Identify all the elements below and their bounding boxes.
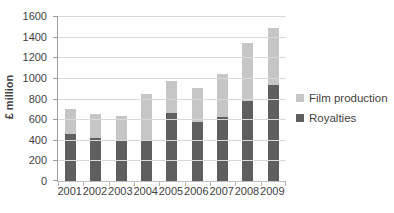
bar-stack-2004 (141, 94, 152, 181)
x-tick-label: 2005 (158, 185, 183, 197)
legend-label: Film production (309, 92, 388, 104)
bar-segment-film-production (217, 74, 228, 117)
legend-swatch-icon (296, 114, 304, 122)
gridline (58, 119, 286, 120)
bar-segment-film-production (192, 88, 203, 122)
bar-segment-film-production (141, 94, 152, 140)
bar-stack-2009 (268, 28, 279, 181)
gridline (58, 78, 286, 79)
y-tick-label: 400 (29, 135, 47, 146)
bar-segment-royalties (166, 113, 177, 181)
plot-area (57, 16, 286, 182)
y-tick-mark (53, 119, 57, 120)
bar-stack-2002 (90, 114, 101, 181)
bar-stack-2003 (116, 116, 127, 181)
x-tick-label: 2009 (260, 185, 285, 197)
x-tick-label: 2006 (184, 185, 209, 197)
stacked-bar-chart: £ million 02004006008001000120014001600 … (0, 0, 394, 213)
y-axis-tick-labels: 02004006008001000120014001600 (0, 16, 51, 181)
bar-stack-2005 (166, 81, 177, 181)
gridline (58, 37, 286, 38)
y-tick-mark (53, 78, 57, 79)
y-tick-label: 800 (29, 94, 47, 105)
bar-segment-royalties (242, 101, 253, 181)
gridline (58, 57, 286, 58)
y-tick-label: 200 (29, 155, 47, 166)
legend: Film productionRoyalties (296, 92, 388, 132)
legend-item-film-production: Film production (296, 92, 388, 104)
gridline (58, 16, 286, 17)
gridline (58, 140, 286, 141)
x-tick-label: 2002 (82, 185, 107, 197)
bar-stack-2006 (192, 88, 203, 181)
x-tick-label: 2001 (57, 185, 82, 197)
y-tick-label: 1400 (23, 32, 47, 43)
y-tick-label: 1200 (23, 52, 47, 63)
bar-stack-2007 (217, 74, 228, 181)
x-tick-label: 2008 (234, 185, 259, 197)
y-tick-mark (53, 99, 57, 100)
bar-segment-film-production (242, 43, 253, 101)
y-tick-label: 1600 (23, 11, 47, 22)
y-tick-label: 0 (41, 176, 47, 187)
gridline (58, 160, 286, 161)
x-tick-label: 2003 (108, 185, 133, 197)
y-tick-label: 600 (29, 114, 47, 125)
bar-segment-royalties (90, 138, 101, 181)
bar-segment-film-production (166, 81, 177, 113)
bar-segment-film-production (65, 109, 76, 134)
y-tick-mark (53, 180, 57, 181)
y-tick-mark (53, 140, 57, 141)
x-axis-labels: 200120022003200420052006200720082009 (57, 185, 285, 197)
x-tick-label: 2004 (133, 185, 158, 197)
bar-segment-film-production (90, 114, 101, 138)
legend-item-royalties: Royalties (296, 112, 388, 124)
y-tick-mark (53, 37, 57, 38)
y-tick-label: 1000 (23, 73, 47, 84)
y-tick-mark (53, 16, 57, 17)
bar-segment-royalties (192, 122, 203, 181)
legend-swatch-icon (296, 94, 304, 102)
legend-label: Royalties (309, 112, 356, 124)
bar-segment-royalties (217, 117, 228, 181)
x-tick-mark (285, 182, 286, 186)
y-tick-mark (53, 57, 57, 58)
x-tick-label: 2007 (209, 185, 234, 197)
y-tick-mark (53, 160, 57, 161)
gridline (58, 99, 286, 100)
